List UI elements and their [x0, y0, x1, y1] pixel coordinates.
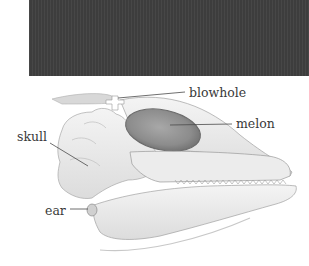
label-ear: ear [45, 205, 66, 218]
head-outline [52, 94, 115, 104]
lower-jaw [93, 185, 296, 240]
label-blowhole: blowhole [189, 87, 246, 100]
ear-bone [87, 204, 97, 216]
dark-image-panel [29, 0, 309, 76]
dolphin-head-illustration [0, 76, 309, 266]
label-melon: melon [236, 118, 275, 131]
label-skull: skull [17, 131, 47, 144]
upper-jaw [130, 151, 290, 182]
